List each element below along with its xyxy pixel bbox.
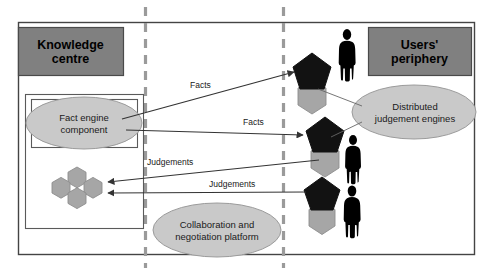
diagram-canvas: Knowledge centre Users' periphery Fact e…	[0, 0, 491, 274]
zone-title-knowledge-centre: Knowledge centre	[18, 38, 123, 66]
zone-title-users-periphery: Users' periphery	[368, 38, 471, 66]
edge-label-judgements-2: Judgements	[209, 179, 255, 189]
node-label-distributed-judgement-engines-line2: judgement engines	[375, 113, 455, 124]
zone-title-users-periphery-line1: Users'	[401, 38, 439, 52]
node-label-collaboration-platform: Collaboration and negotiation platform	[153, 219, 281, 242]
node-label-distributed-judgement-engines-line1: Distributed	[392, 101, 437, 112]
node-label-collaboration-platform-line1: Collaboration and	[180, 219, 254, 230]
edge-label-judgements-1: Judgements	[147, 157, 193, 167]
node-label-distributed-judgement-engines: Distributed judgement engines	[354, 101, 476, 124]
node-label-fact-engine-line2: component	[60, 124, 107, 135]
node-label-fact-engine-line1: Fact engine	[59, 112, 109, 123]
zone-title-knowledge-centre-line1: Knowledge	[37, 38, 104, 52]
node-label-fact-engine: Fact engine component	[26, 112, 142, 135]
node-label-collaboration-platform-line2: negotiation platform	[175, 231, 258, 242]
judgement-engine-3	[304, 177, 340, 235]
edge-label-facts-2: Facts	[243, 117, 264, 127]
edge-label-facts-1: Facts	[190, 80, 211, 90]
zone-title-knowledge-centre-line2: centre	[52, 52, 90, 66]
zone-title-users-periphery-line2: periphery	[391, 52, 448, 66]
